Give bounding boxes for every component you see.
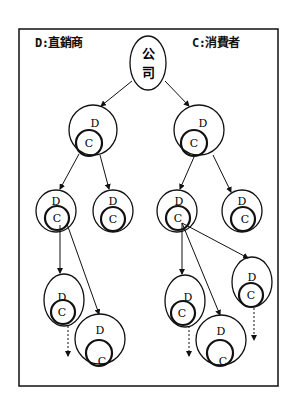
distributor-node: D C	[36, 190, 76, 232]
distributor-node: D C	[165, 275, 205, 327]
consumer-label: C	[241, 213, 249, 226]
distributor-node: D C	[93, 190, 133, 232]
distributor-label: D	[96, 324, 105, 337]
distributor-label: D	[217, 325, 226, 338]
consumer-label: C	[85, 137, 93, 150]
distributor-node: D C	[75, 314, 125, 368]
company-node: 公 司	[130, 36, 166, 90]
consumer-label: C	[58, 306, 66, 319]
consumer-label: C	[109, 213, 117, 226]
consumer-label: C	[53, 212, 61, 225]
distributor-label: D	[91, 117, 100, 130]
company-label-line2: 司	[142, 65, 155, 80]
consumer-label: C	[190, 137, 198, 150]
distributor-node: D C	[196, 315, 246, 368]
consumer-label: C	[174, 212, 182, 225]
distributor-node: D C	[232, 257, 272, 307]
distributor-node: D C	[69, 105, 117, 156]
distributor-label: D	[58, 291, 67, 304]
company-label-line1: 公	[142, 46, 155, 61]
consumer-label: C	[219, 355, 227, 368]
consumer-label: C	[247, 289, 255, 302]
distributor-node: D C	[44, 274, 84, 326]
mlm-tree-diagram: 公 司 D C D C D	[0, 0, 297, 413]
distributor-node: D C	[222, 190, 262, 232]
distributor-node: D C	[157, 190, 197, 232]
distributor-label: D	[199, 117, 208, 130]
consumer-label: C	[98, 355, 106, 368]
consumer-label: C	[178, 307, 186, 320]
distributor-node: D C	[174, 105, 224, 156]
